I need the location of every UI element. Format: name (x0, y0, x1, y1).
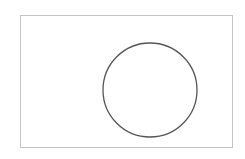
diagram-canvas (0, 0, 245, 159)
frame-rectangle (21, 16, 233, 148)
circle-shape (103, 43, 197, 137)
